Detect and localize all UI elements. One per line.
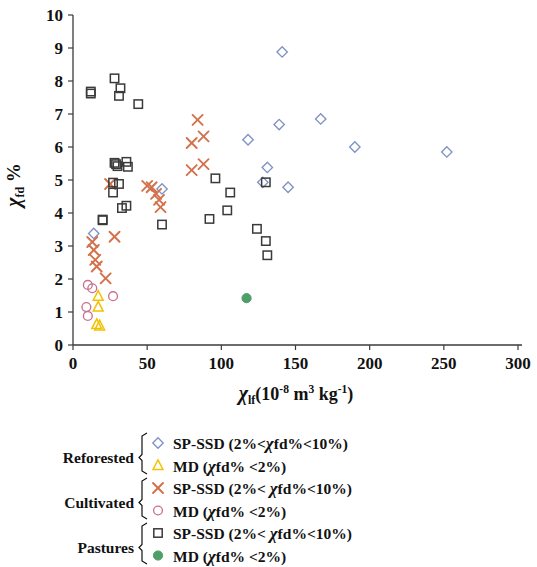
diamond-marker (262, 162, 272, 172)
data-point-open-square (158, 220, 166, 228)
y-tick-label: 9 (55, 39, 64, 58)
diamond-marker (277, 47, 287, 57)
legend-label-post: fd%<10%) (278, 525, 352, 543)
y-tick-label: 3 (55, 237, 64, 256)
legend-entry-label: MD (χfd% <2%) (173, 547, 286, 566)
x-title-exp3: -1 (338, 383, 348, 395)
legend-group-label-cultivated: Cultivated (64, 494, 134, 511)
x-tick-label: 100 (209, 354, 235, 373)
legend-marker-open-square (154, 529, 162, 537)
legend-label-post: fd% <2%) (216, 548, 286, 566)
series-0 (89, 47, 452, 239)
y-tick-label: 2 (55, 270, 64, 289)
data-point-cross (110, 232, 120, 242)
circle-marker (83, 312, 92, 321)
legend-marker-open-circle (154, 506, 163, 515)
x-title-m: m (289, 384, 309, 404)
square-marker (158, 220, 166, 228)
data-point-cross (89, 245, 99, 255)
legend: ReforestedSP-SSD (2%<χfd%<10%)MD (χfd% <… (63, 433, 352, 566)
x-tick-label: 150 (283, 354, 309, 373)
filled-circle-marker (242, 294, 251, 303)
data-point-cross (187, 138, 197, 148)
data-point-open-square (134, 100, 142, 108)
y-axis-title: χfd % (2, 163, 27, 210)
circle-marker (109, 292, 118, 301)
square-marker (154, 529, 162, 537)
legend-label-pre: SP-SSD (2%< (173, 480, 270, 498)
y-tick-label: 5 (55, 171, 64, 190)
square-marker (223, 206, 231, 214)
axes-layer: 012345678910050100150200250300 (46, 6, 531, 373)
square-marker (263, 251, 271, 259)
legend-brace-cultivated (139, 478, 147, 519)
diamond-marker (316, 114, 326, 124)
legend-entry-label: MD (χfd% <2%) (173, 457, 286, 476)
square-marker (110, 74, 118, 82)
diamond-marker (274, 119, 284, 129)
x-tick-label: 300 (505, 354, 531, 373)
x-tick-label: 50 (139, 354, 156, 373)
data-point-cross (92, 261, 102, 271)
x-tick-label: 0 (69, 354, 78, 373)
data-point-cross (199, 131, 209, 141)
series-4 (87, 74, 272, 259)
x-title-paren: (10 (255, 384, 279, 405)
square-marker (109, 188, 117, 196)
scatter-plot-figure: 012345678910050100150200250300 χfd %χlf(… (0, 0, 537, 567)
y-tick-label: 8 (55, 72, 64, 91)
legend-label-pre: SP-SSD (2%< (173, 525, 270, 543)
legend-label-pre: MD ( (173, 548, 208, 566)
x-title-close: ) (347, 384, 353, 405)
x-tick-label: 200 (357, 354, 383, 373)
data-point-open-circle (83, 312, 92, 321)
data-point-open-square (262, 237, 270, 245)
data-point-open-diamond (274, 119, 284, 129)
diamond-marker (153, 438, 163, 448)
x-title-kg: kg (314, 384, 338, 404)
filled-circle-marker (153, 551, 162, 560)
legend-marker-open-diamond (153, 438, 163, 448)
data-point-open-diamond (350, 142, 360, 152)
x-axis-title: χlf(10-8 m3 kg-1) (236, 382, 354, 407)
legend-brace-pastures (139, 523, 147, 564)
square-marker (205, 215, 213, 223)
data-point-open-circle (109, 292, 118, 301)
x-title-exp1: -8 (279, 383, 289, 395)
legend-group-label-reforested: Reforested (63, 449, 135, 466)
legend-group-label-pastures: Pastures (77, 539, 134, 556)
data-point-cross (193, 115, 203, 125)
data-point-filled-circle (242, 294, 251, 303)
y-axis-title-sub: fd (13, 187, 27, 198)
data-point-open-square (253, 225, 261, 233)
triangle-marker (93, 301, 103, 311)
y-tick-label: 10 (46, 6, 63, 25)
x-title-chi: χ (236, 382, 249, 405)
circle-marker (154, 506, 163, 515)
y-tick-label: 1 (55, 303, 64, 322)
legend-label-pre: SP-SSD (2%< (173, 435, 266, 453)
x-tick-label: 250 (431, 354, 457, 373)
square-marker (134, 100, 142, 108)
data-point-open-square (110, 74, 118, 82)
series-5 (242, 294, 251, 303)
series-2 (87, 115, 208, 283)
y-tick-label: 4 (55, 204, 64, 223)
y-tick-label: 0 (55, 336, 64, 355)
diamond-marker (442, 147, 452, 157)
data-point-open-square (205, 215, 213, 223)
y-axis-title-chi: χ (2, 197, 25, 210)
data-point-open-diamond (277, 47, 287, 57)
data-point-cross (199, 159, 209, 169)
legend-label-post: fd% <2%) (216, 503, 286, 521)
data-point-open-square (263, 251, 271, 259)
data-point-open-diamond (262, 162, 272, 172)
data-point-open-diamond (316, 114, 326, 124)
triangle-marker (153, 460, 163, 470)
legend-label-post: fd% <2%) (216, 458, 286, 476)
figure-svg: 012345678910050100150200250300 χfd %χlf(… (0, 0, 537, 567)
data-point-open-diamond (283, 182, 293, 192)
data-point-open-diamond (442, 147, 452, 157)
legend-entry-label: MD (χfd% <2%) (173, 502, 286, 521)
legend-entry-label: SP-SSD (2%< χfd%<10%) (173, 524, 352, 543)
